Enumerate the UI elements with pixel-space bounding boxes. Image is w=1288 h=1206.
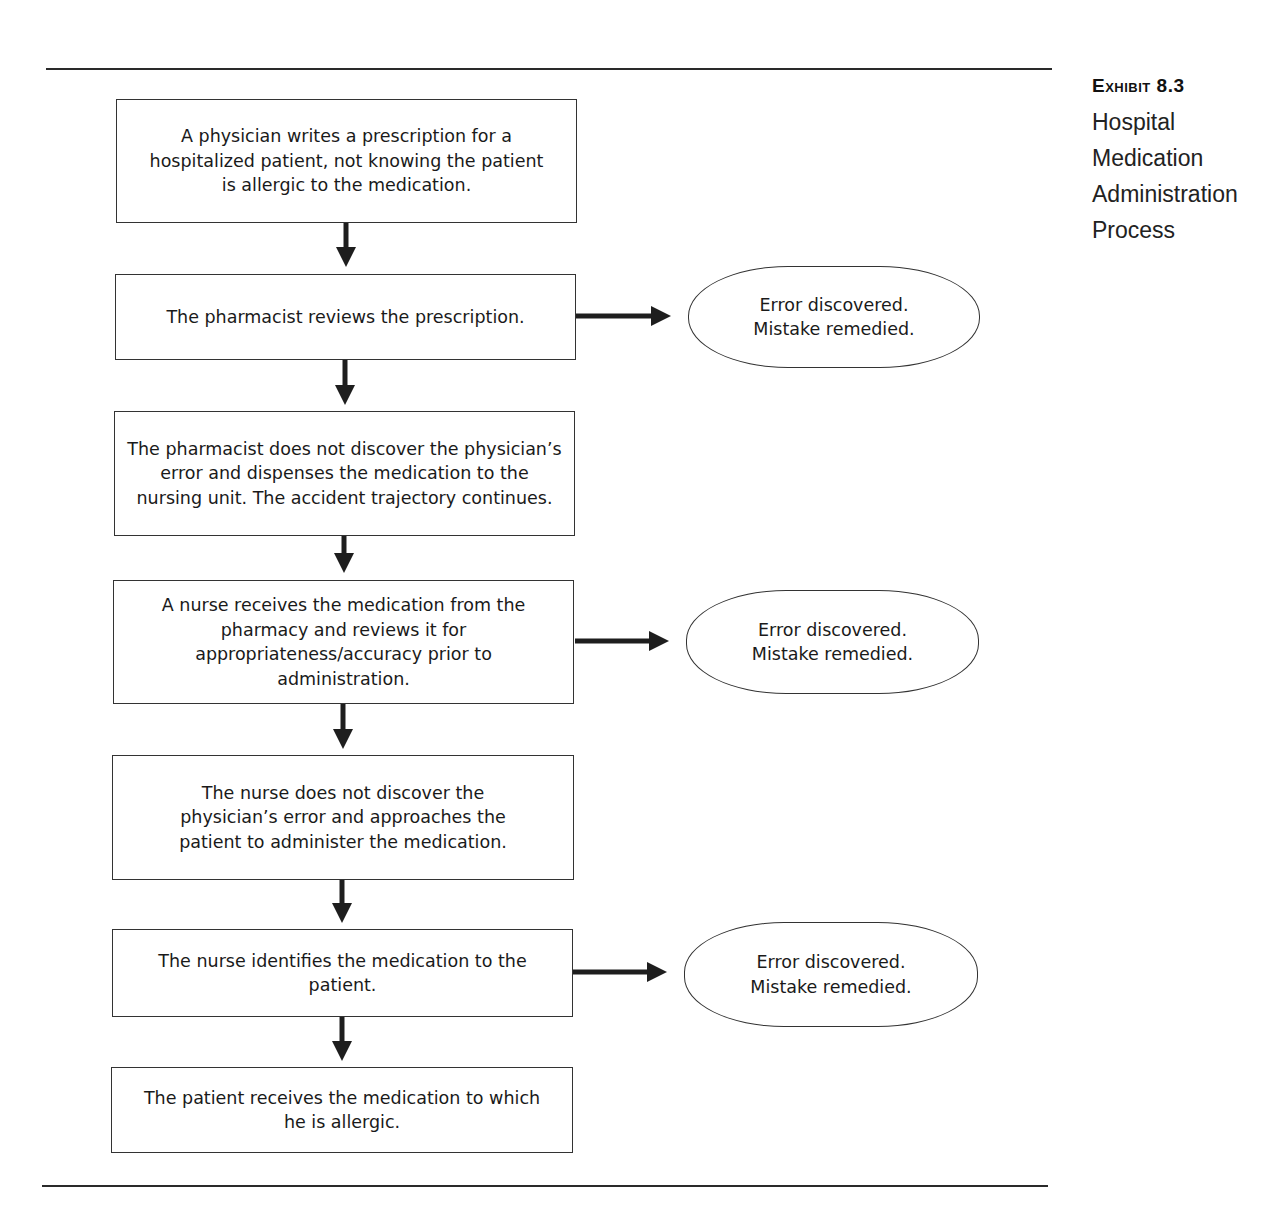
exhibit-prefix: Exhibit <box>1092 75 1151 96</box>
step-text: The patient receives the medication to w… <box>142 1086 542 1135</box>
top-rule <box>46 68 1052 70</box>
step-text: The pharmacist reviews the prescription. <box>166 305 524 330</box>
step-text: A physician writes a prescription for a … <box>147 124 547 198</box>
flow-step-4: A nurse receives the medication from the… <box>113 580 574 704</box>
exhibit-caption: Exhibit 8.3 Hospital Medication Administ… <box>1092 70 1288 248</box>
outcome-oval-1: Error discovered. Mistake remedied. <box>688 266 980 368</box>
flow-step-6: The nurse identifies the medication to t… <box>112 929 573 1017</box>
flow-step-1: A physician writes a prescription for a … <box>116 99 577 223</box>
exhibit-title: Hospital Medication Administration Proce… <box>1092 104 1288 248</box>
step-text: The pharmacist does not discover the phy… <box>125 437 564 511</box>
bottom-rule <box>42 1185 1048 1187</box>
step-text: A nurse receives the medication from the… <box>139 593 549 691</box>
outcome-oval-2: Error discovered. Mistake remedied. <box>686 590 979 694</box>
flow-step-5: The nurse does not discover the physicia… <box>112 755 574 880</box>
exhibit-label: Exhibit 8.3 <box>1092 72 1288 100</box>
step-text: The nurse does not discover the physicia… <box>153 781 533 855</box>
title-line: Process <box>1092 212 1288 248</box>
outcome-line-2: Mistake remedied. <box>753 317 914 342</box>
flow-step-2: The pharmacist reviews the prescription. <box>115 274 576 360</box>
flow-step-7: The patient receives the medication to w… <box>111 1067 573 1153</box>
outcome-line-1: Error discovered. <box>750 950 911 975</box>
right-arrows <box>573 316 662 972</box>
outcome-line-2: Mistake remedied. <box>750 975 911 1000</box>
exhibit-number: 8.3 <box>1157 75 1185 96</box>
outcome-oval-3: Error discovered. Mistake remedied. <box>684 922 978 1027</box>
title-line: Medication <box>1092 140 1288 176</box>
title-line: Hospital <box>1092 104 1288 140</box>
outcome-line-1: Error discovered. <box>752 618 913 643</box>
outcome-line-2: Mistake remedied. <box>752 642 913 667</box>
title-line: Administration <box>1092 176 1288 212</box>
flow-step-3: The pharmacist does not discover the phy… <box>114 411 575 536</box>
step-text: The nurse identifies the medication to t… <box>148 949 538 998</box>
outcome-line-1: Error discovered. <box>753 293 914 318</box>
